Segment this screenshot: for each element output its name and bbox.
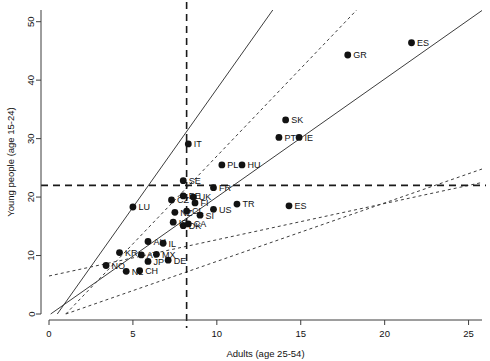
plot-canvas: 051015202501020304050Adults (age 25-54)Y… xyxy=(0,0,490,361)
x-tick-label-15: 15 xyxy=(295,328,306,339)
data-point-SK-2 xyxy=(282,117,289,124)
data-point-label-IE-4: IE xyxy=(305,133,314,143)
data-point-AT-27 xyxy=(138,252,145,259)
scatter-plot-figure: 051015202501020304050Adults (age 25-54)Y… xyxy=(0,0,490,361)
data-point-label-DK-22: DK xyxy=(189,221,202,231)
data-point-AU-24 xyxy=(145,238,152,245)
data-point-NZ-17 xyxy=(171,209,178,216)
data-point-ES-23 xyxy=(286,202,293,209)
y-tick-label-30: 30 xyxy=(26,133,37,144)
data-point-label-NO-31: NO xyxy=(112,261,126,271)
data-point-label-PT-3: PT xyxy=(284,133,296,143)
data-point-FI-13 xyxy=(192,200,199,207)
data-point-label-GR-1: GR xyxy=(353,50,367,60)
data-point-IL-25 xyxy=(160,240,167,247)
data-point-label-SK-2: SK xyxy=(291,115,303,125)
data-point-IS-20 xyxy=(170,219,177,226)
data-point-DE-30 xyxy=(165,257,172,264)
data-point-label-KR-26: KR xyxy=(125,248,138,258)
x-tick-label-5: 5 xyxy=(130,328,135,339)
data-point-label-HU-7: HU xyxy=(248,160,261,170)
y-tick-label-10: 10 xyxy=(26,250,37,261)
data-point-label-DE-30: DE xyxy=(174,256,187,266)
data-point-PT-3 xyxy=(276,134,283,141)
data-point-LU-16 xyxy=(130,204,137,211)
data-point-DK-22 xyxy=(180,222,187,229)
y-tick-label-40: 40 xyxy=(26,75,37,86)
reference-line-3 xyxy=(66,169,482,314)
data-point-TR-14 xyxy=(234,201,241,208)
data-point-label-CH-33: CH xyxy=(145,266,158,276)
data-point-JP-29 xyxy=(145,258,152,265)
data-point-IT-5 xyxy=(185,140,192,147)
data-point-label-IL-25: IL xyxy=(169,239,177,249)
data-point-label-US-15: US xyxy=(219,205,232,215)
data-point-HU-7 xyxy=(239,162,246,169)
y-tick-label-0: 0 xyxy=(26,311,37,316)
y-tick-label-50: 50 xyxy=(26,16,37,27)
data-point-label-SE-8: SE xyxy=(189,176,201,186)
x-tick-label-20: 20 xyxy=(379,328,390,339)
data-point-CL-18 xyxy=(183,208,190,215)
data-point-label-PL-6: PL xyxy=(227,160,238,170)
data-point-label-ES-23: ES xyxy=(294,201,306,211)
x-tick-label-10: 10 xyxy=(212,328,223,339)
data-point-IE-4 xyxy=(296,134,303,141)
y-tick-label-20: 20 xyxy=(26,192,37,203)
data-point-FR-9 xyxy=(210,184,217,191)
data-point-CZ-12 xyxy=(168,197,175,204)
data-point-GR-1 xyxy=(344,52,351,59)
data-point-label-FR-9: FR xyxy=(219,183,231,193)
reference-line-1 xyxy=(66,10,357,314)
data-point-SI-19 xyxy=(197,212,204,219)
x-axis-title: Adults (age 25-54) xyxy=(226,348,304,359)
data-point-NO-31 xyxy=(103,262,110,269)
data-point-label-SI-19: SI xyxy=(206,211,215,221)
data-point-label-CZ-12: CZ xyxy=(177,195,189,205)
data-point-SE-8 xyxy=(180,177,187,184)
x-tick-label-25: 25 xyxy=(463,328,474,339)
x-tick-label-0: 0 xyxy=(46,328,51,339)
data-point-KR-26 xyxy=(116,249,123,256)
data-point-ES-0 xyxy=(408,39,415,46)
data-point-label-IT-5: IT xyxy=(194,139,203,149)
data-point-PL-6 xyxy=(218,162,225,169)
data-point-label-ES-0: ES xyxy=(417,38,429,48)
data-point-NL-32 xyxy=(123,268,130,275)
data-point-label-LU-16: LU xyxy=(138,202,150,212)
y-axis-title: Young people (age 15-24) xyxy=(5,107,16,217)
data-point-CH-33 xyxy=(136,267,143,274)
data-point-label-TR-14: TR xyxy=(242,199,254,209)
